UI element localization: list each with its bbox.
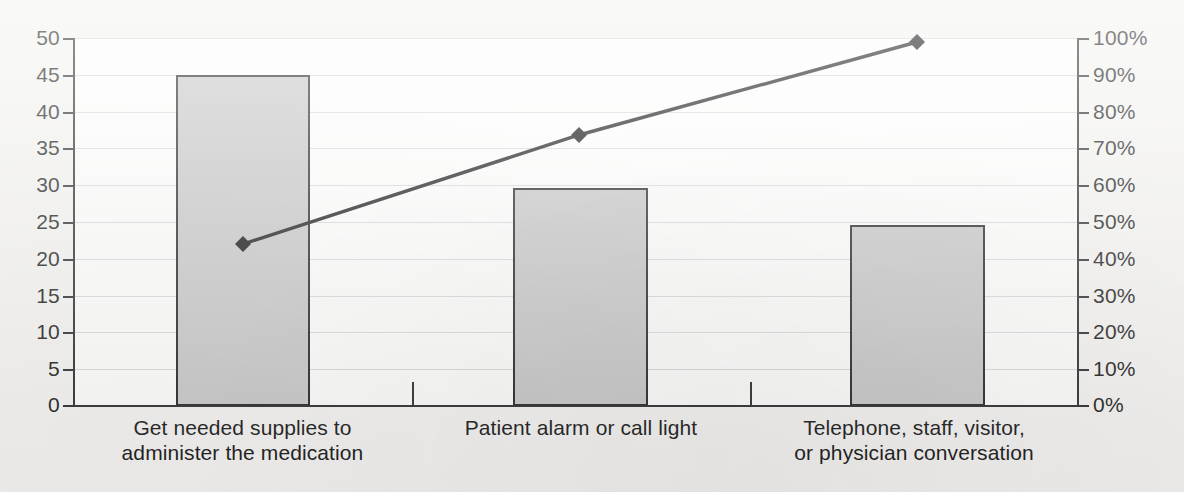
diamond-marker-1 <box>235 236 251 252</box>
diamond-marker-3 <box>909 34 925 50</box>
cumulative-line <box>243 42 917 244</box>
cumulative-line-series <box>0 0 1184 492</box>
pareto-chart-figure: 50 45 40 35 30 25 20 15 10 5 0 100% 90% … <box>0 0 1184 492</box>
diamond-marker-2 <box>571 127 587 143</box>
